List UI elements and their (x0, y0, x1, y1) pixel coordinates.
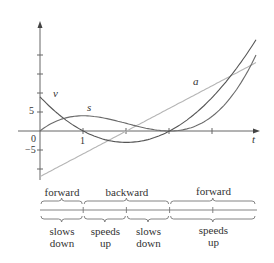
origin-label: 0 (31, 133, 36, 144)
speed-label-slows-down-2: slows down (127, 225, 170, 249)
speed-brace (171, 198, 255, 204)
t-axis-label: t (252, 133, 255, 145)
speed-brace (41, 198, 82, 204)
velocity-curve (40, 40, 256, 143)
y-tick-label-5: 5 (29, 105, 34, 116)
speed-brace (84, 198, 168, 204)
t-tick-label-1: 1 (80, 135, 85, 146)
timeline (40, 198, 257, 222)
speed-label-slows-down-1: slows down (40, 225, 84, 249)
velocity-label: v (53, 87, 58, 99)
axes (18, 21, 260, 180)
speed-label-speeds-up-2: speeds up (170, 224, 257, 248)
direction-brace (171, 216, 255, 222)
direction-brace (127, 216, 168, 222)
acceleration-label: a (193, 75, 199, 87)
speed-label-speeds-up-1: speeds up (84, 225, 127, 249)
direction-brace (84, 216, 125, 222)
direction-label-forward-1: forward (40, 186, 84, 198)
direction-brace (41, 216, 82, 222)
direction-label-forward-2: forward (170, 185, 257, 197)
y-tick-label-neg5: −5 (25, 144, 36, 155)
position-label: s (87, 101, 91, 113)
y-axis-arrow-icon (38, 21, 43, 28)
direction-label-backward: backward (84, 186, 170, 198)
acceleration-curve (40, 63, 256, 177)
